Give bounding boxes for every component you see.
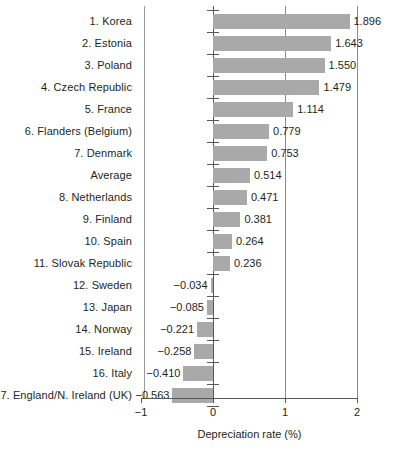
x-tick — [141, 398, 142, 403]
chart-row: 11. Slovak Republic0.236 — [0, 252, 394, 274]
bar-track: 1.479 — [0, 76, 394, 98]
bar — [213, 212, 240, 227]
y-tick — [207, 186, 219, 187]
bar-value-label: −0.410 — [0, 362, 180, 384]
bar-track: 1.114 — [0, 98, 394, 120]
x-tick — [213, 398, 214, 403]
bar-track: 0.236 — [0, 252, 394, 274]
y-tick — [207, 340, 219, 341]
x-tick-label: 0 — [198, 406, 228, 418]
bar-value-label: −0.221 — [0, 318, 194, 340]
bar — [213, 102, 293, 117]
x-tick — [357, 398, 358, 403]
bar — [213, 14, 350, 29]
y-tick — [207, 318, 219, 319]
bar — [213, 146, 267, 161]
bar-value-label: 1.896 — [354, 10, 382, 32]
chart-row: 10. Spain0.264 — [0, 230, 394, 252]
chart-row: 7. Denmark0.753 — [0, 142, 394, 164]
bar — [211, 278, 213, 293]
bar-track: 0.381 — [0, 208, 394, 230]
bar-track: −0.221 — [0, 318, 394, 340]
bar-track: 0.779 — [0, 120, 394, 142]
bar — [213, 58, 325, 73]
bar-value-label: 0.264 — [236, 230, 264, 252]
chart-row: 13. Japan−0.085 — [0, 296, 394, 318]
x-axis-line — [141, 398, 358, 399]
y-tick — [207, 10, 219, 11]
x-axis-title: Depreciation rate (%) — [141, 428, 358, 440]
bar — [197, 322, 213, 337]
bar-track: −0.034 — [0, 274, 394, 296]
bar-value-label: 0.514 — [254, 164, 282, 186]
chart-row: 4. Czech Republic1.479 — [0, 76, 394, 98]
y-tick — [207, 296, 219, 297]
bar — [213, 124, 269, 139]
bar-track: 0.264 — [0, 230, 394, 252]
bar-value-label: 0.779 — [273, 120, 301, 142]
chart-row: 15. Ireland−0.258 — [0, 340, 394, 362]
bar-track: 0.471 — [0, 186, 394, 208]
bar-value-label: −0.085 — [0, 296, 204, 318]
bar-track: −0.258 — [0, 340, 394, 362]
bar-track: −0.085 — [0, 296, 394, 318]
chart-row: 1. Korea1.896 — [0, 10, 394, 32]
bar-value-label: 1.643 — [335, 32, 363, 54]
bar — [172, 388, 213, 403]
x-tick-label: 1 — [270, 406, 300, 418]
x-tick-label: 2 — [342, 406, 372, 418]
bar-value-label: 0.381 — [244, 208, 272, 230]
chart-row: 12. Sweden−0.034 — [0, 274, 394, 296]
chart-row: 8. Netherlands0.471 — [0, 186, 394, 208]
chart-row: 6. Flanders (Belgium)0.779 — [0, 120, 394, 142]
bar-track: 1.896 — [0, 10, 394, 32]
bar-value-label: −0.034 — [0, 274, 208, 296]
bar-track: −0.410 — [0, 362, 394, 384]
depreciation-rate-bar-chart: 1. Korea1.8962. Estonia1.6433. Poland1.5… — [0, 0, 394, 450]
y-tick — [207, 164, 219, 165]
y-tick — [207, 98, 219, 99]
chart-row: 3. Poland1.550 — [0, 54, 394, 76]
y-tick — [207, 252, 219, 253]
chart-row: Average0.514 — [0, 164, 394, 186]
y-tick — [207, 384, 219, 385]
chart-row: 9. Finland0.381 — [0, 208, 394, 230]
bar-value-label: 1.550 — [329, 54, 357, 76]
y-tick — [207, 362, 219, 363]
bar — [194, 344, 213, 359]
bar-value-label: 0.236 — [234, 252, 262, 274]
y-tick — [207, 274, 219, 275]
y-tick — [207, 120, 219, 121]
chart-row: 17. England/N. Ireland (UK)−0.563 — [0, 384, 394, 406]
y-tick — [207, 76, 219, 77]
bar — [213, 234, 232, 249]
bar — [183, 366, 213, 381]
bar-track: 1.550 — [0, 54, 394, 76]
bar-track: 0.753 — [0, 142, 394, 164]
bar — [213, 168, 250, 183]
bar — [207, 300, 213, 315]
bar-value-label: 0.471 — [251, 186, 279, 208]
y-tick — [207, 208, 219, 209]
x-tick-label: −1 — [126, 406, 156, 418]
chart-row: 14. Norway−0.221 — [0, 318, 394, 340]
bar — [213, 256, 230, 271]
y-tick — [207, 32, 219, 33]
bar-value-label: −0.563 — [0, 384, 169, 406]
bar — [213, 36, 331, 51]
chart-row: 5. France1.114 — [0, 98, 394, 120]
bar-track: 0.514 — [0, 164, 394, 186]
bar-value-label: −0.258 — [0, 340, 191, 362]
bar-value-label: 1.114 — [297, 98, 324, 120]
bar-value-label: 1.479 — [323, 76, 351, 98]
chart-row: 2. Estonia1.643 — [0, 32, 394, 54]
bar-value-label: 0.753 — [271, 142, 299, 164]
bar-track: −0.563 — [0, 384, 394, 406]
bar — [213, 190, 247, 205]
y-tick — [207, 54, 219, 55]
x-tick — [285, 398, 286, 403]
bar-track: 1.643 — [0, 32, 394, 54]
y-tick — [207, 142, 219, 143]
bar — [213, 80, 319, 95]
chart-row: 16. Italy−0.410 — [0, 362, 394, 384]
